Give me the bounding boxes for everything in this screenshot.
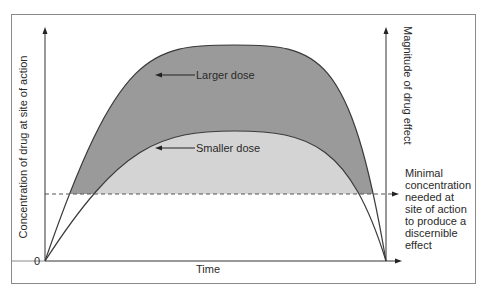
right-axis-label: Magnitude of drug effect: [402, 26, 414, 144]
drug-concentration-diagram: Larger dose Smaller dose 0 Time Concentr…: [0, 0, 488, 297]
left-axis-label: Concentration of drug at site of action: [17, 56, 29, 239]
x-axis-label: Time: [196, 263, 220, 275]
origin-label: 0: [34, 255, 40, 267]
svg-text:concentration: concentration: [405, 179, 471, 191]
larger-dose-label: Larger dose: [196, 69, 255, 81]
svg-text:Minimal: Minimal: [405, 167, 443, 179]
svg-text:to produce a: to produce a: [405, 215, 467, 227]
svg-text:discernible: discernible: [405, 227, 458, 239]
svg-text:effect: effect: [405, 239, 432, 251]
svg-text:site of action: site of action: [405, 203, 467, 215]
svg-text:needed at: needed at: [405, 191, 454, 203]
smaller-dose-label: Smaller dose: [196, 142, 260, 154]
